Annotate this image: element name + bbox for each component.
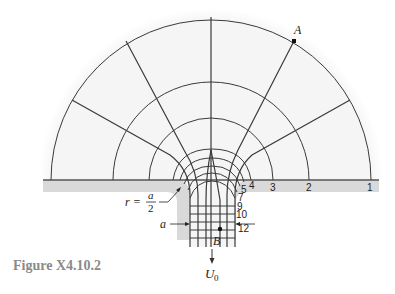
flow-net-diagram: A B r = a 2 a 12345791012 U 0 xyxy=(0,0,395,294)
point-a-label: A xyxy=(293,23,302,37)
velocity-arrowhead-icon xyxy=(210,258,215,264)
streamline-number: 3 xyxy=(270,182,276,193)
streamline-number: 1 xyxy=(367,182,373,193)
streamline-number: 10 xyxy=(236,209,248,220)
point-a-marker xyxy=(292,39,296,43)
streamline-number: 4 xyxy=(249,180,255,191)
width-label: a xyxy=(160,217,166,231)
radius-label: r = xyxy=(125,195,141,209)
point-b-label: B xyxy=(213,234,221,248)
radius-denominator: 2 xyxy=(148,202,154,214)
velocity-subscript: 0 xyxy=(214,273,219,283)
streamline-number: 2 xyxy=(306,182,312,193)
streamline-number: 12 xyxy=(238,223,250,234)
radius-numerator: a xyxy=(148,189,154,201)
figure-caption: Figure X4.10.2 xyxy=(13,258,101,274)
point-b-marker xyxy=(218,227,222,231)
